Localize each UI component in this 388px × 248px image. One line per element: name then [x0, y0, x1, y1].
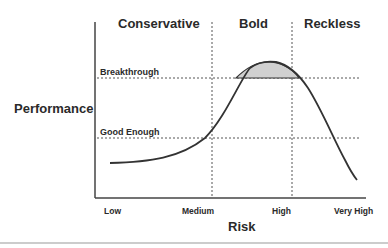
- performance-curve: [110, 62, 357, 180]
- x-tick-medium: Medium: [182, 206, 214, 216]
- x-tick-very-high: Very High: [334, 206, 373, 216]
- x-tick-low: Low: [104, 206, 121, 216]
- zone-reckless-label: Reckless: [304, 16, 360, 31]
- x-tick-high: High: [272, 206, 291, 216]
- breakthrough-label: Breakthrough: [100, 67, 159, 77]
- zone-bold-label: Bold: [239, 16, 268, 31]
- x-axis-label: Risk: [228, 219, 255, 234]
- good-enough-label: Good Enough: [100, 127, 159, 137]
- zone-conservative-label: Conservative: [118, 16, 200, 31]
- y-axis-label: Performance: [14, 101, 93, 116]
